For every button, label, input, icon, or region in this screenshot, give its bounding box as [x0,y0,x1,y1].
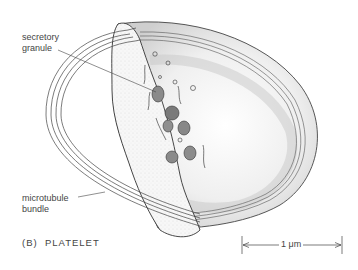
secretory-granule-label: secretory granule [22,32,59,54]
microtubule-bundle-label: microtubule bundle [22,193,69,215]
scale-bar-label: 1 μm [279,239,303,249]
microtubule-bundle-leader [78,192,105,197]
figure-caption: (B) PLATELET [22,237,100,248]
